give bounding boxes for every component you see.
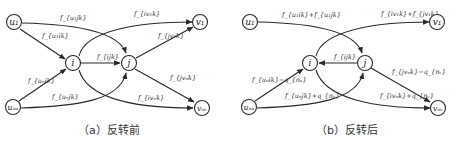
svg-text:vₙᵥ: vₙᵥ (433, 104, 443, 113)
svg-text:v₁: v₁ (196, 17, 205, 27)
node-v1: v₁ (430, 15, 445, 30)
node-i: i (66, 56, 81, 71)
edge-u1-j (258, 22, 362, 53)
label-j-vn: f_{jvₙk} (169, 74, 196, 82)
panel-b: f_{u₁ik}+f_{u₁jk} f_{uₙik}−q_{nᵤ} f_{uₙj… (242, 10, 446, 116)
label-j-v1: f_{jv₁k} (157, 32, 184, 40)
svg-text:u₁: u₁ (9, 17, 18, 27)
label-i-vn: f_{ivₙk}+q_{nᵥ} (379, 92, 434, 100)
label-i-j: f_{ijk} (96, 53, 119, 61)
panel-a: f_{u₁jk} f_{u₁ik} f_{uₙik} f_{uₙjk} f_{i… (6, 10, 210, 116)
node-un: uₙᵤ (6, 100, 21, 115)
svg-text:i: i (72, 58, 75, 68)
label-i-v1: f_{iv₁k}+f_{jv₁k} (380, 10, 439, 18)
node-u1: u₁ (7, 15, 22, 30)
node-j: j (358, 56, 373, 71)
svg-text:v₁: v₁ (433, 17, 442, 27)
flow-reversal-diagram: f_{u₁jk} f_{u₁ik} f_{uₙik} f_{uₙjk} f_{i… (0, 0, 452, 146)
node-un: uₙᵤ (242, 100, 257, 115)
label-un-i: f_{uₙik}−q_{nᵤ} (251, 76, 307, 84)
label-j-vn: f_{jvₙk}−q_{nᵥ} (391, 68, 446, 76)
caption-panel-b: （b）反转后 (316, 121, 378, 137)
svg-text:i: i (309, 58, 312, 68)
node-u1: u₁ (243, 15, 258, 30)
edge-u1-j (22, 23, 126, 53)
label-un-j: f_{uₙjk} (51, 93, 79, 101)
node-vn: vₙᵥ (195, 101, 210, 116)
label-i-vn: f_{ivₙk} (137, 94, 164, 102)
label-un-i: f_{uₙik} (27, 77, 55, 85)
svg-text:vₙᵥ: vₙᵥ (197, 104, 207, 113)
caption-panel-a: （a）反转前 (78, 121, 140, 137)
label-j-i: f_{ijk} (333, 53, 356, 61)
node-j: j (122, 56, 137, 71)
svg-text:u₁: u₁ (245, 17, 254, 27)
node-v1: v₁ (193, 15, 208, 30)
label-un-j: f_{uₙjk}+q_{nᵤ} (284, 92, 340, 100)
label-i-v1: f_{iv₁k} (133, 10, 160, 18)
node-vn: vₙᵥ (431, 101, 446, 116)
svg-text:uₙᵤ: uₙᵤ (244, 103, 255, 112)
svg-text:uₙᵤ: uₙᵤ (8, 103, 19, 112)
edge-i-v1 (316, 22, 429, 56)
label-u1-i: f_{u₁ik} (41, 32, 69, 40)
label-u1-j: f_{u₁ik}+f_{u₁jk} (281, 11, 341, 19)
label-u1-j: f_{u₁jk} (59, 14, 87, 22)
node-i: i (303, 56, 318, 71)
